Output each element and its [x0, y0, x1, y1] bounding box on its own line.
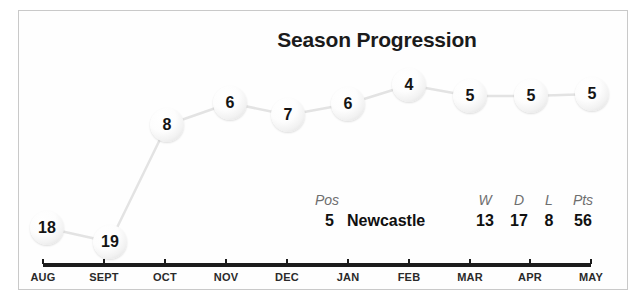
x-axis-line — [43, 263, 591, 267]
x-axis-label: AUG — [30, 271, 55, 283]
x-axis-label: NOV — [214, 271, 238, 283]
x-axis-tick — [529, 259, 531, 264]
data-point-marker: 6 — [331, 87, 365, 121]
stat-value-pts: 56 — [574, 212, 592, 230]
stat-header-l: L — [545, 192, 553, 208]
x-axis-tick — [469, 259, 471, 264]
data-point-marker: 8 — [150, 108, 184, 142]
x-axis-label: APR — [518, 271, 542, 283]
stat-header-d: D — [514, 192, 524, 208]
stats-value-row: 5 Newcastle 1317856 — [315, 212, 600, 232]
pos-header: Pos — [315, 192, 339, 208]
x-axis-tick — [347, 259, 349, 264]
data-point-marker: 6 — [213, 86, 247, 120]
data-point-marker: 4 — [392, 68, 426, 102]
x-axis-label: MAY — [579, 271, 603, 283]
x-axis-label: OCT — [153, 271, 177, 283]
data-point-marker: 5 — [514, 79, 548, 113]
pos-value: 5 — [325, 212, 334, 230]
data-point-marker: 5 — [575, 77, 609, 111]
stat-header-w: W — [478, 192, 491, 208]
x-axis-label: MAR — [457, 271, 483, 283]
x-axis-label: SEPT — [89, 271, 119, 283]
data-point-marker: 7 — [271, 98, 305, 132]
team-stats-panel: Pos WDLPts 5 Newcastle 1317856 — [315, 192, 600, 232]
team-name: Newcastle — [347, 212, 425, 230]
stats-header-row: Pos WDLPts — [315, 192, 600, 212]
x-axis-label: DEC — [275, 271, 299, 283]
x-axis-tick — [225, 259, 227, 264]
x-axis-label: FEB — [398, 271, 421, 283]
x-axis-tick — [164, 259, 166, 264]
x-axis-tick — [286, 259, 288, 264]
chart-root: Season Progression 181986764555 AUGSEPTO… — [0, 0, 644, 300]
stat-value-l: 8 — [545, 212, 554, 230]
data-point-marker: 5 — [453, 79, 487, 113]
stat-value-d: 17 — [510, 212, 528, 230]
x-axis-tick — [408, 259, 410, 264]
data-point-marker: 18 — [30, 211, 64, 245]
stat-value-w: 13 — [476, 212, 494, 230]
x-axis-label: JAN — [337, 271, 360, 283]
data-point-marker: 19 — [93, 225, 127, 259]
x-axis-tick — [103, 259, 105, 264]
x-axis-tick — [590, 259, 592, 264]
chart-title: Season Progression — [0, 28, 644, 52]
x-axis-tick — [42, 259, 44, 264]
stat-header-pts: Pts — [573, 192, 593, 208]
